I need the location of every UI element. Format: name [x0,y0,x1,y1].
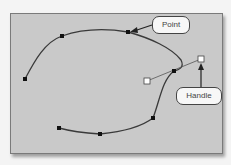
arrowhead-icon [198,63,204,70]
point-callout: Point [152,16,190,34]
anchor-point-icon[interactable] [172,69,176,73]
anchor-point-icon[interactable] [98,132,102,136]
handle-icon[interactable] [198,56,204,62]
anchor-point-icon[interactable] [126,30,130,34]
anchor-point-icon[interactable] [151,116,155,120]
anchor-point-icon[interactable] [23,77,27,81]
anchor-point-icon[interactable] [57,126,61,130]
handle-icon[interactable] [144,78,150,84]
bezier-diagram [0,0,231,165]
bezier-curve [25,30,182,134]
handle-callout: Handle [176,87,222,105]
arrowhead-icon [130,27,138,33]
anchor-point-icon[interactable] [60,34,64,38]
